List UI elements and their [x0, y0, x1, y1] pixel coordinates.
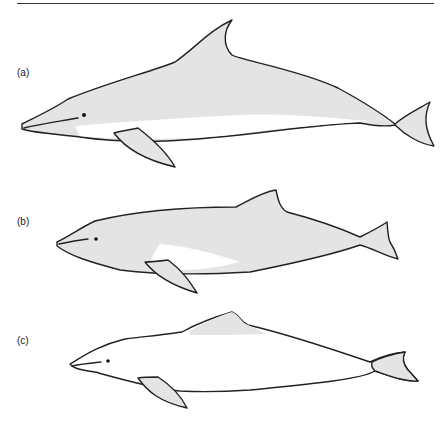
- dolphin-c-tail: [372, 352, 418, 381]
- dolphin-illustrations: [0, 0, 447, 424]
- dolphin-c-eye: [106, 359, 110, 363]
- dolphin-a: [22, 20, 434, 167]
- dolphin-b-eye: [94, 237, 98, 241]
- dolphin-a-eye: [82, 113, 86, 117]
- dolphin-b: [57, 190, 398, 293]
- dolphin-c: [70, 312, 418, 408]
